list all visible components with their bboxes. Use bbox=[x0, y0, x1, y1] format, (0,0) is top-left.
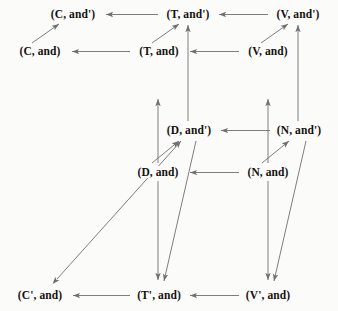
node-v-prime-and: (V, and') bbox=[276, 8, 321, 20]
node-n-and: (N, and) bbox=[246, 166, 289, 178]
commutative-diagram: (C, and') (T, and') (V, and') (C, and) (… bbox=[0, 0, 338, 311]
node-n-prime-and: (N, and') bbox=[276, 124, 322, 136]
node-c-and: (C, and) bbox=[18, 45, 61, 57]
node-d-prime-and: (D, and') bbox=[166, 124, 212, 136]
node-c-prime-and: (C, and') bbox=[50, 8, 96, 20]
edge-t-to-t-prime bbox=[152, 24, 179, 43]
edge-c-to-c-prime bbox=[32, 24, 59, 43]
edge-n-prime-to-v2 bbox=[274, 141, 306, 281]
node-t-and: (T, and) bbox=[138, 45, 180, 57]
node-v-and: (V, and) bbox=[247, 45, 289, 57]
edge-v-to-v-prime bbox=[261, 24, 288, 43]
node-v2-and: (V', and) bbox=[245, 289, 291, 301]
edge-n-to-n-prime bbox=[262, 141, 289, 163]
edge-c2-to-d-prime bbox=[57, 141, 181, 279]
node-t2-and: (T', and) bbox=[136, 289, 182, 301]
edge-d-to-d-prime bbox=[152, 141, 179, 163]
edge-d-prime-to-t2 bbox=[164, 141, 196, 281]
node-d-and: (D, and) bbox=[136, 166, 179, 178]
node-c2-and: (C', and) bbox=[17, 289, 63, 301]
node-t-prime-and: (T, and') bbox=[166, 8, 211, 20]
